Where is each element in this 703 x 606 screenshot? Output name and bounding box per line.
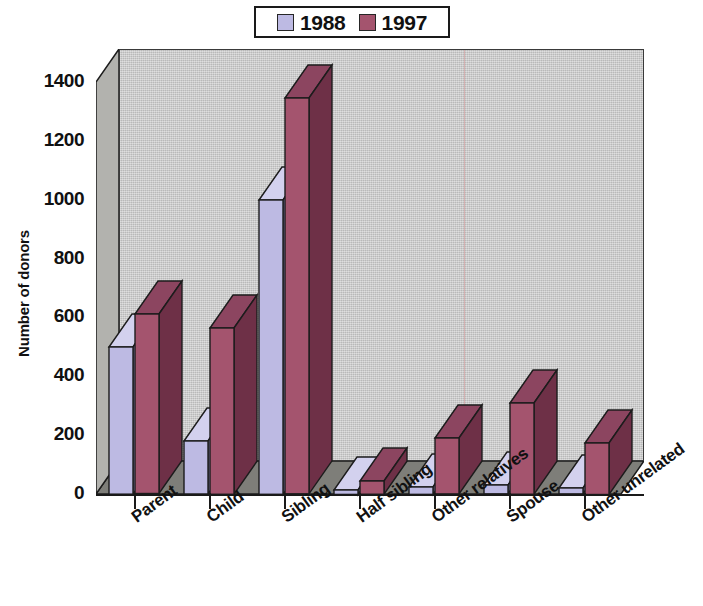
plot-area	[96, 49, 644, 494]
y-axis-ticks: 0200400600800100012001400	[22, 0, 84, 606]
y-tick-label: 200	[22, 424, 84, 443]
y-tick-label: 600	[22, 306, 84, 325]
chart-legend: 1988 1997	[254, 6, 450, 38]
bar-1988-child	[184, 441, 208, 494]
y-tick-label: 400	[22, 365, 84, 384]
paper-grain	[120, 50, 643, 460]
bar-1988-sibling	[259, 200, 283, 494]
bar-1988-parent	[109, 347, 133, 494]
legend-label-1988: 1988	[300, 12, 346, 33]
y-tick-label: 1000	[22, 189, 84, 208]
y-tick-label: 0	[22, 483, 84, 502]
y-tick-label: 800	[22, 248, 84, 267]
legend-item-1988: 1988	[277, 12, 346, 33]
y-tick-label: 1400	[22, 71, 84, 90]
legend-item-1997: 1997	[359, 12, 428, 33]
bar-1997-parent	[135, 314, 159, 494]
chart-figure: 1988 1997 Number of donors 0200400600800…	[0, 0, 703, 606]
chart-back-wall	[119, 49, 644, 461]
bar-1997-child	[210, 328, 234, 494]
legend-label-1997: 1997	[382, 12, 428, 33]
bar-1997-other-unrelated	[585, 443, 609, 495]
y-tick-label: 1200	[22, 130, 84, 149]
bar-1997-sibling	[285, 98, 309, 494]
legend-swatch-1988	[277, 14, 294, 31]
bar-1997-other-relatives	[435, 438, 459, 494]
scan-artifact-line	[464, 50, 465, 462]
legend-swatch-1997	[359, 14, 376, 31]
